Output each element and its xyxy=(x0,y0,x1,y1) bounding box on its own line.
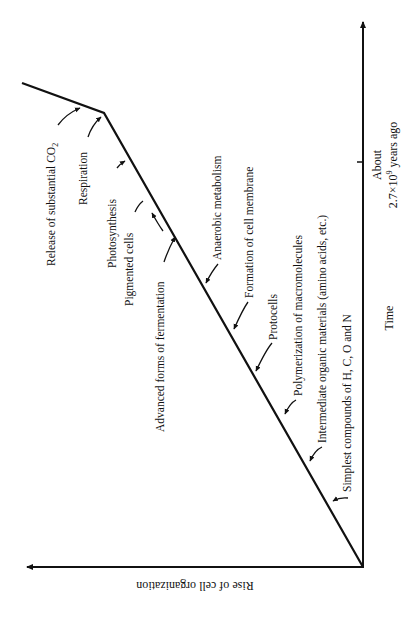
pointer-fermentation xyxy=(164,237,175,262)
evolution-curve xyxy=(22,83,363,567)
stage-label-fermentation: Advanced forms of fermentation xyxy=(154,281,166,432)
stage-label-respiration: Respiration xyxy=(77,152,90,205)
pointer-anaerobic xyxy=(206,264,218,283)
pointer-photosynthesis xyxy=(135,201,143,212)
time-axis-label: Time xyxy=(382,306,396,331)
pointer-co2 xyxy=(58,108,80,125)
time-marker-value-base: 2.7×10 xyxy=(386,174,400,208)
pointer-polymerization xyxy=(285,400,296,414)
stage-label-intermediate: Intermediate organic materials (amino ac… xyxy=(316,215,329,443)
stage-label-photosynthesis: Photosynthesis xyxy=(106,198,119,268)
cell-evolution-diagram: Rise of cell organization Time About 2.7… xyxy=(0,0,406,620)
stage-label-co2-text: Release of substantial CO xyxy=(45,147,57,266)
stage-label-anaerobic: Anaerobic metabolism xyxy=(211,156,223,260)
organization-axis-label: Rise of cell organization xyxy=(136,579,253,593)
pointer-intermediate xyxy=(310,447,322,461)
diagram-svg: Rise of cell organization Time About 2.7… xyxy=(0,0,406,620)
stage-label-cell-membrane: Formation of cell membrane xyxy=(243,167,255,298)
stage-label-co2-subscript: 2 xyxy=(51,143,60,147)
pointer-respiration xyxy=(88,117,101,137)
time-marker-about: About xyxy=(370,149,384,180)
pointer-photosynthesis-2 xyxy=(117,161,125,168)
stage-pointers xyxy=(58,108,348,501)
pointer-simplest xyxy=(333,498,348,501)
time-marker-suffix: years ago xyxy=(386,122,400,171)
pointer-protocells xyxy=(256,343,272,371)
stage-label-pigmented: Pigmented cells xyxy=(123,232,136,306)
stage-label-co2: Release of substantial CO2 xyxy=(45,143,60,266)
stage-label-simplest: Simplest compounds of H, C, O and N xyxy=(341,313,354,492)
stage-label-protocells: Protocells xyxy=(267,293,279,340)
pointer-cell-membrane xyxy=(234,302,248,329)
stage-label-polymerization: Polymerization of macromolecules xyxy=(292,235,305,396)
time-marker-value: 2.7×109 years ago xyxy=(385,122,400,208)
